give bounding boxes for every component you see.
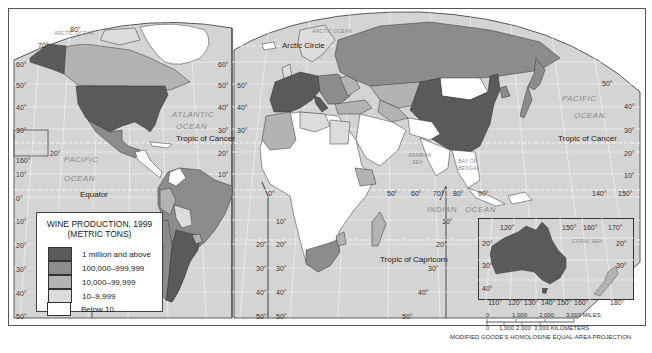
ocean-label-coral-sea: CORAL SEA	[572, 238, 602, 244]
lon-label: 70°	[433, 190, 444, 197]
legend-item: Below 10	[47, 302, 114, 316]
label-tropic-cancer-east: Tropic of Cancer	[558, 134, 617, 143]
lat-label: 50°	[256, 313, 267, 320]
lat-label: 10°	[624, 172, 635, 179]
scale-miles-label: 3,000 MILES	[566, 312, 601, 318]
lat-label: 40°	[276, 289, 287, 296]
lat-label: 60°	[218, 61, 229, 68]
legend-label: 10,000–99,999	[82, 278, 135, 287]
legend-title-units: (METRIC TONS)	[37, 229, 162, 239]
scale-km-label: 3,000 KILOMETERS	[534, 325, 589, 331]
ocean-label-pacific-east-1: PACIFIC	[562, 94, 596, 103]
lon-label: 80°	[453, 190, 464, 197]
lat-label: 30°	[237, 127, 248, 134]
lat-label: 40°	[624, 103, 635, 110]
inset-lon-label: 120°	[508, 299, 522, 306]
inset-lon-label: 150°	[562, 224, 576, 231]
scale-km-label: 1,000	[499, 325, 514, 331]
legend-swatch	[47, 302, 71, 316]
lat-label: 30°	[428, 265, 439, 272]
inset-lat-label: 20°	[482, 240, 493, 247]
legend-item: 10–9,999	[48, 289, 115, 303]
lat-label: 30°	[16, 127, 27, 134]
legend-swatch	[48, 261, 72, 275]
legend-swatch	[48, 275, 72, 289]
ocean-label-atlantic-1: ATLANTIC	[172, 110, 214, 119]
lat-label: 40°	[418, 289, 429, 296]
label-equator: Equator	[80, 190, 108, 199]
inset-lat-label: 30°	[482, 262, 493, 269]
scale-miles-label: 2,000	[539, 312, 554, 318]
inset-lon-label: 120°	[500, 224, 514, 231]
lat-label: 0°	[16, 195, 23, 202]
lat-label: 80°	[70, 26, 81, 33]
inset-lon-label: 150°	[557, 299, 571, 306]
lat-label: 50°	[16, 82, 27, 89]
legend: WINE PRODUCTION, 1999 (METRIC TONS) 1 mi…	[36, 212, 163, 312]
lat-label: 30°	[256, 265, 267, 272]
lat-label: 30°	[16, 266, 27, 273]
lat-label: 20°	[50, 150, 61, 157]
inset-lon-label: 140°	[541, 299, 555, 306]
lon-label: 90°	[478, 190, 489, 197]
ocean-label-pacific-east-2: OCEAN	[574, 111, 605, 120]
ocean-label-arabian-1: ARABIAN	[408, 152, 431, 158]
ocean-label-arctic-east: ARCTIC OCEAN	[312, 28, 352, 34]
lat-label: 20°	[16, 242, 27, 249]
lat-label: 10°	[16, 171, 27, 178]
ocean-label-atlantic-2: OCEAN	[176, 122, 207, 131]
inset-lat-label: 30°	[616, 262, 627, 269]
inset-lon-label: 170°	[608, 224, 622, 231]
legend-label: 1 million and above	[82, 250, 151, 259]
lat-label: 40°	[237, 104, 248, 111]
label-tropic-capricorn: Tropic of Capricorn	[380, 255, 448, 264]
lat-label: 50°	[602, 80, 613, 87]
legend-item: 1 million and above	[48, 247, 151, 261]
ocean-label-pacific-west-2: OCEAN	[64, 174, 95, 183]
lat-label: 10°	[276, 218, 287, 225]
lat-label: 30°	[624, 127, 635, 134]
lon-label: 140°	[592, 190, 606, 197]
legend-label: 10–9,999	[82, 292, 115, 301]
lat-label: 40°	[256, 289, 267, 296]
ocean-label-pacific-west-1: PACIFIC	[64, 155, 98, 164]
lat-label: 50°	[237, 82, 248, 89]
lat-label: 20°	[436, 241, 447, 248]
legend-swatch	[48, 289, 72, 303]
inset-lon-label: 160°	[574, 299, 588, 306]
scale-km-label: 0	[486, 325, 489, 331]
ocean-label-arabian-2: SEA	[412, 159, 423, 165]
lat-label: 50°	[402, 313, 413, 320]
lon-label: 160°	[16, 157, 30, 164]
ocean-label-bengal-1: BAY OF	[458, 158, 477, 164]
legend-item: 10,000–99,999	[48, 275, 135, 289]
legend-title: WINE PRODUCTION, 1999 (METRIC TONS)	[37, 219, 162, 239]
inset-lat-label: 20°	[616, 240, 627, 247]
lat-label: 30°	[276, 265, 287, 272]
legend-title-main: WINE PRODUCTION, 1999	[37, 219, 162, 229]
projection-caption: MODIFIED GOODE'S HOMOLOSINE EQUAL-AREA P…	[450, 334, 631, 340]
scale-miles-label: 1,000	[512, 312, 527, 318]
inset-lon-label: 180°	[610, 299, 624, 306]
scale-km-label: 2,000	[516, 325, 531, 331]
inset-lon-label: 130°	[524, 299, 538, 306]
ocean-label-indian-1: INDIAN	[427, 205, 457, 214]
lat-label: 50°	[16, 313, 27, 320]
lat-label: 20°	[276, 241, 287, 248]
lat-label: 60°	[16, 61, 27, 68]
inset-lon-label: 110°	[488, 299, 502, 306]
lat-label: 10°	[218, 171, 229, 178]
label-tropic-cancer-west: Tropic of Cancer	[176, 134, 235, 143]
legend-label: 100,000–999,999	[82, 264, 144, 273]
lat-label: 40°	[218, 104, 229, 111]
ocean-label-bengal-2: BENGAL	[458, 165, 480, 171]
ocean-label-indian-2: OCEAN	[465, 205, 496, 214]
lon-label: 60°	[411, 190, 422, 197]
label-arctic-circle: Arctic Circle	[282, 41, 325, 50]
lat-label: 50°	[218, 82, 229, 89]
lat-label: 20°	[624, 150, 635, 157]
inset-lon-label: 160°	[583, 224, 597, 231]
lat-label: 30°	[218, 127, 229, 134]
lon-label: 0°	[268, 190, 275, 197]
lat-label: 70°	[38, 42, 49, 49]
